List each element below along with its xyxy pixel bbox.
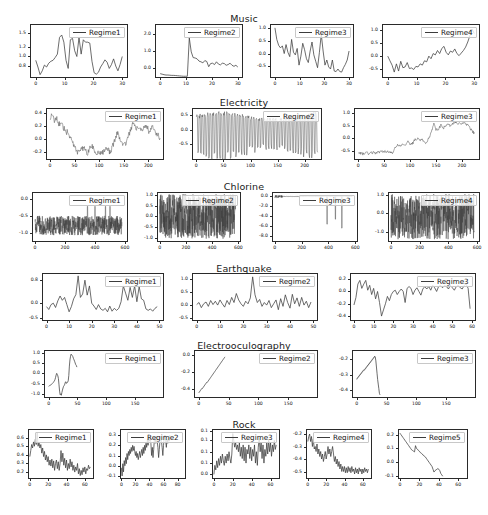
x-tick-label: 20: [45, 483, 51, 488]
y-tick-label: -0.5: [18, 315, 38, 320]
panel-music-regime4: -0.50.00.51.00102030Regime4: [360, 24, 482, 90]
y-tick-label: 1.0: [168, 277, 188, 282]
legend-regime5[interactable]: Regime5: [409, 432, 465, 443]
y-tick-label: 0.0: [133, 66, 151, 71]
legend-regime3[interactable]: Regime3: [295, 27, 351, 38]
y-tick-label: -1.0: [364, 230, 384, 235]
y-tick-label: 0.0: [22, 137, 42, 142]
legend-regime4[interactable]: Regime4: [421, 195, 477, 206]
x-tick-label: 20: [416, 483, 422, 488]
legend-regime3[interactable]: Regime3: [421, 111, 477, 122]
legend-regime1[interactable]: Regime1: [105, 276, 161, 287]
x-tick-label: 40: [342, 483, 348, 488]
dataset-title-chlorine: Chlorine: [0, 182, 488, 192]
regime-plot-figure: Music0.81.01.21.50102030Regime10.01.02.0…: [0, 0, 488, 515]
x-tick-label: 50: [381, 164, 387, 169]
x-tick-label: 0: [47, 402, 50, 407]
y-tick-label: -0.5: [8, 214, 28, 219]
panel-electricity-regime1: -0.20.00.20.4050100150200Regime1: [22, 108, 166, 172]
y-tick-label: -0.2: [286, 432, 302, 437]
legend-line-swatch: [263, 358, 276, 359]
y-tick-label: 1.0: [248, 26, 266, 31]
x-tick-label: 0: [158, 246, 161, 251]
legend-label: Regime3: [441, 113, 473, 121]
legend-regime1[interactable]: Regime1: [105, 111, 161, 122]
dataset-title-earthquake: Earthquake: [0, 264, 488, 274]
y-tick-label: -0.5: [360, 67, 378, 72]
y-tick-label: 0.1: [378, 446, 394, 451]
legend-regime2[interactable]: Regime2: [259, 353, 315, 364]
legend-line-swatch: [421, 281, 434, 282]
legend-line-swatch: [225, 437, 238, 438]
y-tick-label: 0.4: [8, 453, 24, 458]
legend-regime3[interactable]: Regime3: [221, 432, 277, 443]
y-tick-label: -0.5: [168, 142, 188, 147]
y-tick-label: -0.4: [326, 388, 348, 393]
panel-chlorine-regime1: -1.0-0.50.00200400600Regime1: [8, 192, 130, 254]
x-tick-label: 400: [324, 246, 333, 251]
x-tick-label: 30: [471, 82, 477, 87]
legend-line-swatch: [299, 32, 312, 33]
panel-music-regime2: 0.01.02.00102030Regime2: [133, 24, 245, 90]
legend-regime3[interactable]: Regime3: [417, 276, 473, 287]
x-tick-label: 30: [235, 82, 241, 87]
x-tick-label: 10: [371, 325, 377, 330]
y-tick-label: 0.8: [18, 278, 38, 283]
legend-regime2[interactable]: Regime2: [127, 432, 183, 443]
x-tick-label: 150: [119, 164, 128, 169]
x-tick-label: 40: [64, 483, 70, 488]
x-tick-label: 60: [469, 325, 475, 330]
x-tick-label: 20: [321, 82, 327, 87]
legend-label: Regime4: [333, 434, 365, 442]
y-tick-label: 2.0: [133, 31, 151, 36]
x-tick-label: 0: [357, 164, 360, 169]
y-tick-label: -0.5: [286, 469, 302, 474]
y-tick-label: -4.0: [248, 214, 268, 219]
panel-electricity-regime2: -0.50.00.5050100150200Regime2: [168, 108, 324, 172]
legend-regime3[interactable]: Regime3: [417, 353, 473, 364]
legend-regime3[interactable]: Regime3: [299, 195, 355, 206]
y-tick-label: 0.5: [360, 41, 378, 46]
legend-label: Regime1: [125, 355, 157, 363]
x-tick-label: 10: [62, 82, 68, 87]
legend-regime4[interactable]: Regime4: [421, 27, 477, 38]
legend-label: Regime3: [315, 29, 347, 37]
y-tick-label: 1.0: [364, 192, 384, 197]
x-tick-label: 0: [273, 246, 276, 251]
y-tick-label: 0.3: [8, 461, 24, 466]
legend-regime4[interactable]: Regime4: [313, 432, 369, 443]
x-tick-label: 100: [95, 164, 104, 169]
legend-label: Regime3: [437, 278, 469, 286]
y-tick-label: -2.0: [248, 204, 268, 209]
y-tick-label: -0.3: [286, 444, 302, 449]
legend-regime2[interactable]: Regime2: [184, 27, 240, 38]
y-tick-label: 0.2: [8, 470, 24, 475]
x-tick-label: 0: [352, 325, 355, 330]
legend-label: Regime1: [55, 434, 87, 442]
legend-line-swatch: [109, 116, 122, 117]
x-tick-label: 10: [414, 82, 420, 87]
legend-line-swatch: [73, 200, 86, 201]
legend-regime2[interactable]: Regime2: [259, 276, 315, 287]
x-tick-label: 0: [273, 82, 276, 87]
legend-regime1[interactable]: Regime1: [35, 432, 91, 443]
x-tick-label: 40: [134, 325, 140, 330]
legend-line-swatch: [413, 437, 426, 438]
panel-earthquake-regime1: -0.50.00.801020304050Regime1: [18, 273, 166, 333]
x-tick-label: 100: [102, 402, 111, 407]
legend-regime1[interactable]: Regime1: [69, 195, 125, 206]
dataset-title-music: Music: [0, 14, 488, 24]
legend-regime2[interactable]: Regime2: [263, 111, 319, 122]
x-tick-label: 30: [111, 325, 117, 330]
legend-regime2[interactable]: Regime2: [182, 195, 238, 206]
x-tick-label: 150: [131, 402, 140, 407]
panel-earthquake-regime2: -0.50.00.51.001020304050Regime2: [168, 273, 320, 333]
legend-regime1[interactable]: Regime1: [105, 353, 161, 364]
y-tick-label: 0.0: [192, 472, 208, 477]
x-tick-label: 40: [249, 483, 255, 488]
y-tick-label: 0.2: [22, 124, 42, 129]
legend-regime1[interactable]: Regime1: [69, 27, 125, 38]
y-tick-label: 0.0: [100, 463, 116, 468]
legend-line-swatch: [425, 200, 438, 201]
x-tick-label: 0: [355, 402, 358, 407]
